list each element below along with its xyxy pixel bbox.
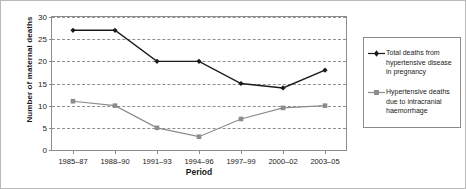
data-point-diamond — [322, 68, 327, 73]
data-point-square — [197, 134, 202, 139]
data-point-diamond — [238, 81, 243, 86]
chart-legend: Total deaths from hypertensive disease i… — [363, 37, 461, 128]
data-point-square — [239, 117, 244, 122]
data-point-square — [323, 103, 328, 108]
y-tick-mark — [49, 150, 52, 151]
x-tick-label: 2003–05 — [310, 157, 339, 166]
data-point-diamond — [196, 59, 201, 64]
x-tick-label: 2000–02 — [268, 157, 297, 166]
data-point-square — [155, 126, 160, 131]
series-line — [73, 101, 325, 136]
series-layer — [52, 17, 346, 150]
series-1 — [70, 28, 327, 91]
data-point-square — [281, 106, 286, 111]
data-point-diamond — [280, 85, 285, 90]
legend-label-total-deaths: Total deaths from hypertensive disease i… — [386, 48, 457, 77]
y-tick-label: 25 — [38, 35, 47, 44]
chart-figure: Number of maternal deaths 05101520253019… — [0, 0, 466, 189]
y-tick-label: 20 — [38, 57, 47, 66]
y-tick-label: 15 — [38, 79, 47, 88]
y-tick-label: 0 — [43, 146, 47, 155]
x-tick-label: 1991–93 — [142, 157, 171, 166]
legend-entry-total-deaths: Total deaths from hypertensive disease i… — [368, 48, 457, 77]
y-tick-label: 10 — [38, 101, 47, 110]
x-tick-mark — [199, 150, 200, 154]
x-tick-mark — [283, 150, 284, 154]
legend-label-intracranial-haemorrhage: Hypertensive deaths due to intracranial … — [386, 87, 457, 116]
data-point-diamond — [70, 28, 75, 33]
data-point-square — [113, 103, 118, 108]
x-tick-mark — [115, 150, 116, 154]
legend-entry-intracranial-haemorrhage: Hypertensive deaths due to intracranial … — [368, 87, 457, 116]
x-tick-label: 1994–96 — [184, 157, 213, 166]
legend-marker-square-icon — [368, 88, 385, 97]
x-tick-label: 1997–99 — [226, 157, 255, 166]
x-tick-mark — [241, 150, 242, 154]
series-2 — [71, 99, 328, 139]
y-axis-title: Number of maternal deaths — [25, 0, 34, 145]
y-tick-label: 30 — [38, 13, 47, 22]
data-point-square — [71, 99, 76, 104]
x-tick-mark — [325, 150, 326, 154]
x-axis-title: Period — [51, 167, 347, 177]
x-tick-mark — [157, 150, 158, 154]
x-tick-label: 1985–87 — [58, 157, 87, 166]
x-tick-label: 1988–90 — [100, 157, 129, 166]
y-tick-label: 5 — [43, 123, 47, 132]
x-tick-mark — [73, 150, 74, 154]
plot-area: 0510152025301985–871988–901991–931994–96… — [51, 16, 347, 151]
legend-marker-diamond-icon — [368, 49, 385, 58]
